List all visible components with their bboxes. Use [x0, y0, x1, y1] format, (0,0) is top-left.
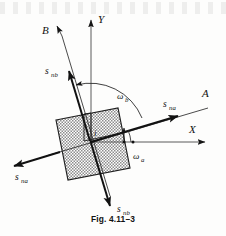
x-axis-label: X	[188, 123, 197, 135]
s-na-left-subscript: na	[21, 177, 28, 184]
b-axis-arrow	[57, 26, 62, 36]
omega-a-label: ω a	[133, 151, 145, 163]
s-na-left-label: s na	[15, 172, 28, 184]
s-na-right-label: s na	[163, 99, 176, 111]
omega-a-subscript: a	[141, 156, 145, 163]
s-na-right-base: s	[163, 99, 167, 109]
omega-b-subscript: b	[125, 96, 129, 103]
omega-a-symbol: ω	[133, 151, 139, 161]
vector-s-na-left	[14, 152, 60, 166]
omega-b-label: ω b	[117, 91, 129, 103]
s-na-left-shaft	[14, 152, 60, 166]
b-axis-label: B	[42, 24, 49, 36]
figure-canvas: Y X A B s nb s nb s na s na ω b	[0, 0, 226, 236]
body-square	[56, 108, 130, 180]
omega-a-dot-inner	[123, 141, 126, 144]
s-na-right-subscript: na	[169, 104, 176, 111]
origin-point	[90, 141, 93, 144]
rigid-body	[56, 108, 130, 180]
s-nb-upper-subscript: nb	[51, 71, 58, 78]
y-axis-label: Y	[98, 13, 106, 25]
omega-a-arc-path	[128, 130, 131, 142]
a-axis-label: A	[201, 87, 209, 99]
s-nb-lower-base: s	[117, 204, 121, 214]
omega-a-dot-outer	[132, 141, 135, 144]
s-nb-upper-label: s nb	[45, 66, 58, 78]
figure-caption: Fig. 4.11–3	[0, 214, 226, 224]
s-nb-upper-base: s	[45, 66, 49, 76]
figure-root: Y X A B s nb s nb s na s na ω b	[0, 0, 226, 236]
omega-b-symbol: ω	[117, 91, 123, 101]
s-na-left-base: s	[15, 172, 19, 182]
